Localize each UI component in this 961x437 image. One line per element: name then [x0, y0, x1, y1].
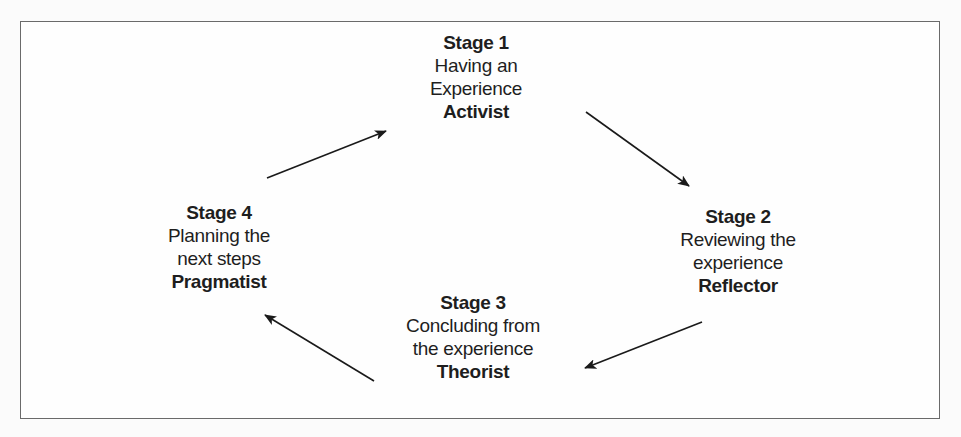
- stage-1-role: Activist: [430, 100, 522, 123]
- stage-2-title: Stage 2: [680, 205, 795, 228]
- stage-3-desc-line-2: the experience: [406, 337, 540, 360]
- stage-3-node: Stage 3 Concluding from the experience T…: [406, 291, 540, 383]
- arrow-stage1-to-stage2: [586, 112, 689, 186]
- arrow-stage2-to-stage3: [585, 322, 702, 368]
- stage-4-node: Stage 4 Planning the next steps Pragmati…: [168, 201, 270, 293]
- stage-4-desc-line-1: Planning the: [168, 224, 270, 247]
- stage-4-title: Stage 4: [168, 201, 270, 224]
- stage-1-node: Stage 1 Having an Experience Activist: [430, 31, 522, 123]
- arrow-stage4-to-stage1: [267, 131, 386, 178]
- stage-4-role: Pragmatist: [168, 270, 270, 293]
- stage-1-title: Stage 1: [430, 31, 522, 54]
- stage-1-desc-line-1: Having an: [430, 54, 522, 77]
- stage-4-desc-line-2: next steps: [168, 247, 270, 270]
- stage-2-node: Stage 2 Reviewing the experience Reflect…: [680, 205, 795, 297]
- stage-2-desc-line-1: Reviewing the: [680, 228, 795, 251]
- stage-2-desc-line-2: experience: [680, 251, 795, 274]
- stage-3-role: Theorist: [406, 360, 540, 383]
- arrow-stage3-to-stage4: [265, 315, 374, 381]
- stage-2-role: Reflector: [680, 274, 795, 297]
- stage-3-title: Stage 3: [406, 291, 540, 314]
- stage-3-desc-line-1: Concluding from: [406, 314, 540, 337]
- stage-1-desc-line-2: Experience: [430, 77, 522, 100]
